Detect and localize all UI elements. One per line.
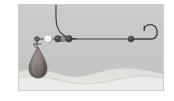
plastic-bead-dark-right [66, 36, 73, 43]
plastic-bead-white [44, 35, 53, 44]
plastic-bead-grey-center [61, 36, 66, 41]
fishing-rig-figure: Diagram of a fishing rig: line from abov… [0, 0, 174, 101]
rig-illustration-canvas [0, 0, 174, 101]
